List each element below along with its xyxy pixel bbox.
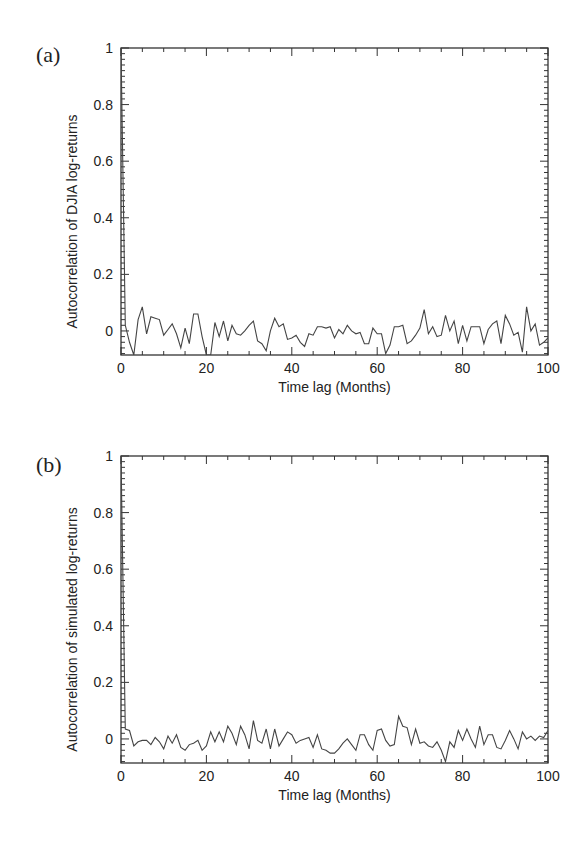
x-tick-label: 60 bbox=[369, 768, 385, 784]
plot-frame bbox=[121, 456, 548, 763]
autocorrelation-chart-simulated: 02040608010000.20.40.60.81Time lag (Mont… bbox=[0, 0, 581, 846]
x-tick-label: 20 bbox=[199, 768, 215, 784]
y-tick-label: 0.8 bbox=[94, 505, 114, 521]
y-tick-label: 0.4 bbox=[94, 618, 114, 634]
y-tick-label: 0.6 bbox=[94, 561, 114, 577]
x-tick-label: 40 bbox=[284, 768, 300, 784]
y-tick-label: 1 bbox=[105, 448, 113, 464]
y-axis-title: Autocorrelation of simulated log-returns bbox=[64, 507, 80, 751]
x-tick-label: 80 bbox=[455, 768, 471, 784]
x-tick-label: 0 bbox=[117, 768, 125, 784]
x-axis-title: Time lag (Months) bbox=[278, 787, 390, 803]
y-tick-label: 0.2 bbox=[94, 674, 114, 690]
panel-b: (b) 02040608010000.20.40.60.81Time lag (… bbox=[0, 0, 581, 846]
data-series-line bbox=[121, 456, 548, 762]
y-tick-label: 0 bbox=[105, 731, 113, 747]
x-tick-label: 100 bbox=[536, 768, 560, 784]
